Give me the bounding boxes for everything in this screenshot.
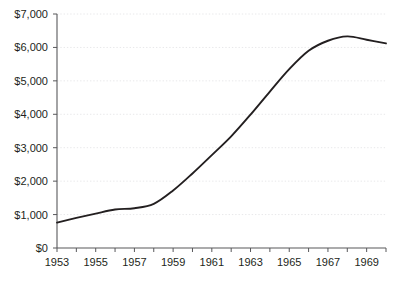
x-axis-tick-label: 1963	[238, 256, 262, 268]
y-axis-tick-label: $7,000	[14, 8, 48, 20]
y-axis-tick-label: $0	[36, 242, 48, 254]
x-axis-tick-label: 1959	[161, 256, 185, 268]
x-axis-tick-label: 1965	[277, 256, 301, 268]
x-axis-tick-label: 1957	[122, 256, 146, 268]
x-axis-tick-label: 1955	[83, 256, 107, 268]
x-axis-tick-marks	[57, 248, 386, 252]
x-axis-tick-label: 1953	[45, 256, 69, 268]
x-axis-tick-label: 1967	[316, 256, 340, 268]
chart-canvas: $7,000$6,000$5,000$4,000$3,000$2,000$1,0…	[0, 0, 400, 285]
y-axis-tick-labels: $7,000$6,000$5,000$4,000$3,000$2,000$1,0…	[14, 8, 48, 254]
y-axis-tick-label: $6,000	[14, 41, 48, 53]
y-axis-tick-label: $4,000	[14, 108, 48, 120]
y-axis-tick-marks	[53, 14, 57, 248]
gridlines-group	[57, 14, 386, 215]
line-chart: $7,000$6,000$5,000$4,000$3,000$2,000$1,0…	[0, 0, 400, 285]
y-axis-tick-label: $2,000	[14, 175, 48, 187]
y-axis-tick-label: $5,000	[14, 75, 48, 87]
x-axis-tick-label: 1961	[200, 256, 224, 268]
x-axis-tick-labels: 195319551957195919611963196519671969	[45, 256, 379, 268]
y-axis-tick-label: $1,000	[14, 209, 48, 221]
y-axis-tick-label: $3,000	[14, 142, 48, 154]
data-series-line	[57, 36, 386, 222]
x-axis-tick-label: 1969	[354, 256, 378, 268]
